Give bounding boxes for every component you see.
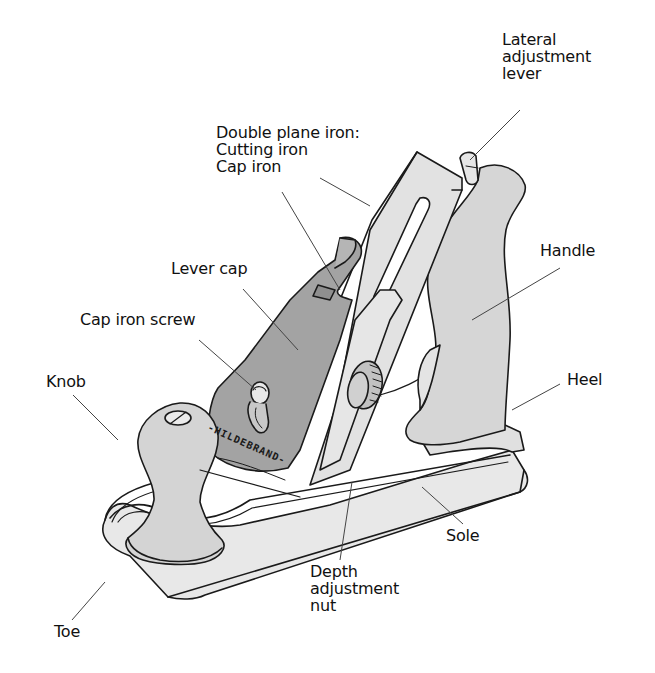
leader-lateral <box>470 110 520 160</box>
label-cap-iron-screw: Cap iron screw <box>80 311 195 328</box>
label-knob: Knob <box>46 373 86 390</box>
leader-cap-iron <box>320 178 370 206</box>
leader-knob <box>73 395 118 440</box>
label-toe: Toe <box>54 623 80 640</box>
leader-toe <box>72 582 105 620</box>
leader-heel <box>512 384 560 410</box>
label-lever-cap: Lever cap <box>171 260 247 277</box>
label-depth-adjustment-nut: Depth adjustment nut <box>310 563 399 614</box>
label-heel: Heel <box>567 371 602 388</box>
label-sole: Sole <box>446 527 479 544</box>
label-lateral-adjustment-lever: Lateral adjustment lever <box>502 31 591 82</box>
label-double-plane-iron: Double plane iron: Cutting iron Cap iron <box>216 124 360 175</box>
leader-cutting-iron <box>282 192 340 290</box>
label-handle: Handle <box>540 242 595 259</box>
